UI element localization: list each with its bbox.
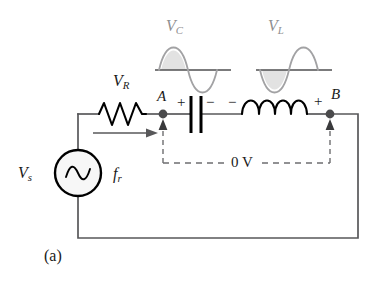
- node-b-dot: [326, 110, 335, 119]
- current-direction-arrow: [93, 129, 158, 138]
- ac-source-symbol: [55, 150, 101, 196]
- resonant-frequency-label: fr: [113, 166, 122, 182]
- resistor-symbol: [99, 103, 146, 125]
- current-arrow-head: [146, 129, 158, 138]
- inductor-waveform-label: VL: [268, 18, 284, 34]
- source-voltage-label: Vs: [18, 165, 32, 181]
- resistor-voltage-label: VR: [113, 73, 129, 89]
- capacitor-voltage-waveform: [155, 48, 231, 93]
- node-a-label: A: [157, 89, 166, 104]
- node-a-dot: [159, 110, 168, 119]
- measured-voltage-label: 0 V: [228, 155, 256, 170]
- inductor-symbol: [242, 101, 307, 115]
- figure-part-label: (a): [44, 248, 62, 264]
- capacitor-minus-sign: −: [206, 95, 214, 110]
- node-b-label: B: [331, 87, 340, 102]
- circuit-diagram-svg: [0, 0, 376, 285]
- inductor-minus-sign: −: [228, 95, 236, 110]
- circuit-figure: VC VL VR A B Vs fr 0 V (a) + − − +: [0, 0, 376, 285]
- measurement-probe-a-arrowhead: [159, 119, 168, 130]
- capacitor-plus-sign: +: [177, 95, 185, 110]
- measurement-probe-b-arrowhead: [326, 119, 335, 130]
- capacitor-symbol: [191, 96, 201, 133]
- capacitor-waveform-label: VC: [166, 18, 183, 34]
- inductor-voltage-waveform: [256, 48, 332, 93]
- inductor-plus-sign: +: [314, 94, 322, 109]
